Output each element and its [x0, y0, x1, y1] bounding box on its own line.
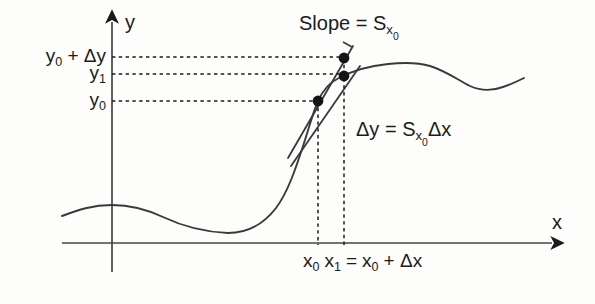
x-tick-x0b: x: [362, 250, 372, 271]
y-tick-base: y: [90, 62, 100, 83]
point-x1-on-tangent: [339, 53, 350, 64]
x-tick-x1-subscript: 1: [334, 260, 341, 274]
point-x1-on-curve: [339, 71, 350, 82]
x-tick-plus-delta-x: + Δx: [384, 250, 423, 271]
y-tick-subscript: 0: [99, 99, 106, 113]
slope-annotation: Slope = Sx0: [299, 13, 399, 33]
slope-annotation-subsubscript: 0: [393, 31, 399, 42]
x-tick-equals: =: [346, 250, 357, 271]
x-tick-x0: x: [303, 250, 313, 271]
delta-y-annotation-tail: Δx: [428, 118, 451, 140]
y-tick-subscript: 1: [99, 72, 106, 86]
point-x0-on-curve: [313, 96, 324, 107]
y-tick-base: y: [90, 89, 100, 110]
delta-y-annotation-subsubscript: 0: [422, 137, 428, 148]
x-tick-x1: x: [324, 250, 334, 271]
y-tick-label-y0: y0: [0, 90, 106, 109]
delta-y-annotation-lead: Δy = S: [356, 118, 416, 140]
slope-annotation-subscript: x: [386, 22, 393, 37]
derivative-diagram: y0 + Δy y1 y0 y x Slope = Sx0 Δy = Sx0Δx…: [0, 0, 595, 304]
x-axis-label: x: [552, 212, 562, 232]
delta-y-annotation: Δy = Sx0Δx: [356, 119, 451, 139]
slope-annotation-lead: Slope = S: [299, 12, 386, 34]
x-tick-labels: x0x1=x0+ Δx: [303, 251, 422, 270]
y-tick-label-y1: y1: [0, 63, 106, 82]
x-tick-x0-subscript: 0: [313, 260, 320, 274]
x-tick-x0b-subscript: 0: [372, 260, 379, 274]
secant-line: [291, 66, 360, 166]
slope-leader-line: [343, 42, 352, 47]
y-axis-label: y: [125, 12, 135, 32]
